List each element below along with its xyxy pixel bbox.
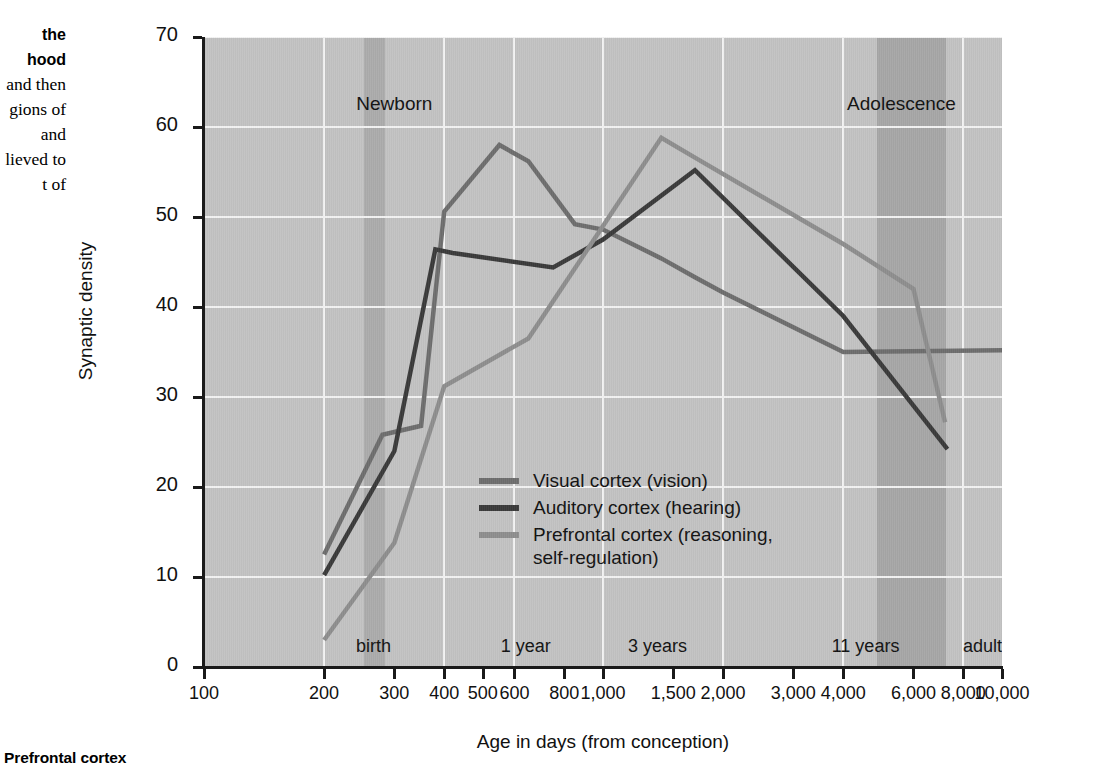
y-tick-label-0: 0 — [118, 653, 178, 676]
y-tick-50 — [193, 216, 202, 219]
legend-auditory: Auditory cortex (hearing) — [479, 496, 773, 519]
x-tick-6000 — [912, 669, 915, 679]
legend-auditory-swatch — [479, 505, 519, 511]
y-tick-label-20: 20 — [118, 473, 178, 496]
x-tick-2000 — [722, 669, 725, 679]
x-tick-1500 — [672, 669, 675, 679]
y-axis-title: Synaptic density — [75, 211, 97, 411]
x-tick-label-3000: 3,000 — [771, 683, 816, 704]
x-tick-label-4000: 4,000 — [821, 683, 866, 704]
adolescence-label: Adolescence — [847, 93, 956, 115]
x-tick-3000 — [792, 669, 795, 679]
x-tick-100 — [203, 669, 206, 679]
y-tick-40 — [193, 306, 202, 309]
legend-visual: Visual cortex (vision) — [479, 469, 773, 492]
y-tick-label-60: 60 — [118, 113, 178, 136]
y-tick-label-50: 50 — [118, 203, 178, 226]
x-tick-label-1000: 1,000 — [580, 683, 625, 704]
legend-visual-swatch — [479, 478, 519, 484]
milestone-adult: adult — [963, 636, 1002, 657]
x-tick-10000 — [1001, 669, 1004, 679]
x-tick-label-200: 200 — [309, 683, 339, 704]
newborn-label: Newborn — [356, 93, 432, 115]
legend-prefrontal-label: Prefrontal cortex (reasoning,self-regula… — [533, 523, 773, 569]
y-tick-label-30: 30 — [118, 383, 178, 406]
milestone-birth: birth — [356, 636, 391, 657]
bottom-caption: Prefrontal cortex — [4, 749, 126, 767]
x-tick-200 — [323, 669, 326, 679]
legend-prefrontal: Prefrontal cortex (reasoning,self-regula… — [479, 523, 773, 569]
x-tick-800 — [563, 669, 566, 679]
y-axis-line — [202, 37, 205, 668]
y-tick-label-40: 40 — [118, 293, 178, 316]
x-tick-label-1500: 1,500 — [651, 683, 696, 704]
x-tick-label-2000: 2,000 — [701, 683, 746, 704]
y-tick-30 — [193, 396, 202, 399]
x-tick-1000 — [602, 669, 605, 679]
x-tick-label-10000: 10,000 — [974, 683, 1029, 704]
x-tick-400 — [443, 669, 446, 679]
legend-prefrontal-swatch — [479, 532, 519, 538]
y-tick-0 — [193, 666, 202, 669]
chart-legend: Visual cortex (vision)Auditory cortex (h… — [479, 469, 773, 573]
x-axis-title: Age in days (from conception) — [204, 731, 1002, 753]
x-tick-label-800: 800 — [549, 683, 579, 704]
x-tick-500 — [482, 669, 485, 679]
legend-visual-label: Visual cortex (vision) — [533, 469, 708, 492]
y-tick-10 — [193, 576, 202, 579]
x-tick-label-6000: 6,000 — [891, 683, 936, 704]
y-tick-label-70: 70 — [118, 23, 178, 46]
milestone-3-years: 3 years — [628, 636, 687, 657]
y-tick-70 — [193, 36, 202, 39]
x-tick-300 — [393, 669, 396, 679]
x-tick-label-600: 600 — [499, 683, 529, 704]
figure: NewbornAdolescencebirth1 year3 years11 y… — [0, 0, 1105, 782]
x-tick-label-100: 100 — [189, 683, 219, 704]
legend-auditory-label: Auditory cortex (hearing) — [533, 496, 741, 519]
y-tick-20 — [193, 486, 202, 489]
x-tick-label-500: 500 — [468, 683, 498, 704]
y-tick-label-10: 10 — [118, 563, 178, 586]
x-tick-8000 — [962, 669, 965, 679]
plot-area: NewbornAdolescencebirth1 year3 years11 y… — [204, 37, 1002, 667]
milestone-1-year: 1 year — [501, 636, 551, 657]
x-tick-4000 — [842, 669, 845, 679]
y-tick-60 — [193, 126, 202, 129]
x-tick-label-300: 300 — [379, 683, 409, 704]
x-tick-600 — [513, 669, 516, 679]
milestone-11-years: 11 years — [832, 636, 900, 657]
x-tick-label-400: 400 — [429, 683, 459, 704]
